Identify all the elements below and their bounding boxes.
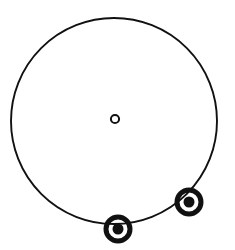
bullseye-centre-dot — [113, 224, 124, 235]
circle-diagram-svg — [0, 0, 235, 250]
background — [0, 0, 235, 250]
diagram-canvas — [0, 0, 235, 250]
bullseye-centre-dot — [184, 197, 195, 208]
